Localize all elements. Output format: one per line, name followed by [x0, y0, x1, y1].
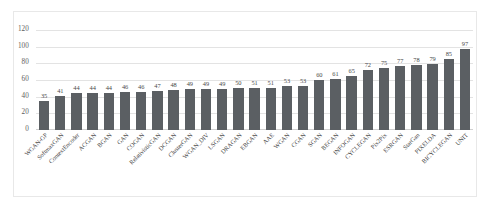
bar-value-label: 46: [138, 84, 144, 90]
bar-group: 50: [230, 30, 246, 130]
bar-value-label: 65: [349, 68, 355, 74]
bar: [444, 59, 454, 130]
y-axis-tick-label: 120: [18, 26, 29, 33]
bar: [249, 88, 259, 131]
bar-group: 47: [149, 30, 165, 130]
bar-group: 49: [182, 30, 198, 130]
bar-value-label: 77: [397, 58, 403, 64]
bar-group: 48: [166, 30, 182, 130]
bar-value-label: 46: [122, 84, 128, 90]
bar-value-label: 44: [106, 85, 112, 91]
bar: [71, 93, 81, 130]
bar-group: 51: [246, 30, 262, 130]
bar: [87, 93, 97, 130]
bar-value-label: 41: [57, 88, 63, 94]
bar: [55, 96, 65, 130]
y-axis-tick-label: 80: [22, 60, 29, 67]
bar-value-label: 49: [203, 81, 209, 87]
bar: [120, 92, 130, 130]
y-axis-tick-label: 100: [18, 43, 29, 50]
bar-group: 46: [133, 30, 149, 130]
bar: [266, 88, 276, 131]
bar-group: 44: [68, 30, 84, 130]
bar-group: 77: [392, 30, 408, 130]
bar-value-label: 51: [268, 80, 274, 86]
bar: [298, 86, 308, 130]
bar-value-label: 78: [413, 57, 419, 63]
bar-value-label: 72: [365, 62, 371, 68]
y-axis-tick-label: 0: [25, 126, 29, 133]
y-axis-tick-label: 20: [22, 110, 29, 117]
bar-group: 79: [425, 30, 441, 130]
bar: [395, 66, 405, 130]
bar-group: 35: [36, 30, 52, 130]
bar-value-label: 47: [154, 83, 160, 89]
bar: [314, 80, 324, 130]
bar-group: 75: [376, 30, 392, 130]
x-axis-category-labels: WGAN-GPSoftmaxGANContextEncoderACGANBGAN…: [36, 131, 473, 197]
bar-value-label: 97: [462, 41, 468, 47]
bar: [136, 92, 146, 130]
bar-group: 49: [214, 30, 230, 130]
bar-group: 72: [360, 30, 376, 130]
bar-group: 97: [457, 30, 473, 130]
bar-value-label: 48: [170, 82, 176, 88]
bar-value-label: 44: [90, 85, 96, 91]
bar-value-label: 53: [300, 78, 306, 84]
bar: [217, 89, 227, 130]
bar-value-label: 75: [381, 60, 387, 66]
bar-group: 85: [441, 30, 457, 130]
bar-series: 3541444444464647484949495051515353606165…: [36, 30, 473, 130]
bar: [201, 89, 211, 130]
y-axis-tick-label: 40: [22, 93, 29, 100]
x-axis-category-label: UNIT: [454, 132, 469, 147]
bar-group: 49: [198, 30, 214, 130]
bar: [346, 76, 356, 130]
bar: [233, 88, 243, 130]
x-axis-label-slot: EBGAN: [246, 131, 262, 197]
bar-group: 51: [263, 30, 279, 130]
bar-group: 41: [52, 30, 68, 130]
bar-group: 44: [85, 30, 101, 130]
bar-value-label: 50: [235, 80, 241, 86]
bar: [168, 90, 178, 130]
bar: [104, 93, 114, 130]
bar-group: 61: [327, 30, 343, 130]
bar: [411, 65, 421, 130]
bar: [427, 64, 437, 130]
bar: [363, 70, 373, 130]
bar: [152, 91, 162, 130]
bar: [330, 79, 340, 130]
bar: [39, 101, 49, 130]
bar-group: 60: [311, 30, 327, 130]
y-axis: 020406080100120: [0, 30, 33, 130]
bar-group: 44: [101, 30, 117, 130]
bar: [185, 89, 195, 130]
bar-chart-figure: 020406080100120 354144444446464748494949…: [0, 0, 490, 216]
bar: [460, 49, 470, 130]
bar-value-label: 44: [73, 85, 79, 91]
bar-value-label: 49: [187, 81, 193, 87]
bar-group: 78: [408, 30, 424, 130]
bar-value-label: 79: [429, 56, 435, 62]
bar-value-label: 35: [41, 93, 47, 99]
bar-group: 53: [279, 30, 295, 130]
bar: [282, 86, 292, 130]
bar-value-label: 85: [446, 51, 452, 57]
bar-value-label: 60: [316, 72, 322, 78]
bar-group: 65: [344, 30, 360, 130]
x-axis-label-slot: UNIT: [457, 131, 473, 197]
bar-value-label: 51: [251, 80, 257, 86]
bar-value-label: 53: [284, 78, 290, 84]
bar: [379, 68, 389, 131]
bar-group: 53: [295, 30, 311, 130]
bar-value-label: 61: [332, 71, 338, 77]
y-axis-tick-label: 60: [22, 76, 29, 83]
bar-group: 46: [117, 30, 133, 130]
bar-value-label: 49: [219, 81, 225, 87]
